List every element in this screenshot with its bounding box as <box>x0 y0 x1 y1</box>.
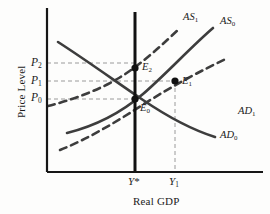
curve-label-as0: AS0 <box>220 16 235 27</box>
x-axis-title: Real GDP <box>133 196 180 207</box>
ad-as-diagram: Price Level Real GDP P2 P1 P0 Y* Y1 AS1 … <box>0 0 270 214</box>
y-tick-label-p2: P2 <box>31 57 42 69</box>
y-tick-label-p0: P0 <box>31 92 42 104</box>
x-tick-label-ystar: Y* <box>128 176 140 187</box>
equilibrium-point-e0 <box>131 95 138 102</box>
curve-label-ad0: AD0 <box>220 130 237 141</box>
equilibrium-point-e1 <box>171 77 178 84</box>
x-tick-label-y1: Y1 <box>169 176 179 189</box>
curve-label-as1: AS1 <box>183 12 198 23</box>
y-tick-label-p1: P1 <box>31 75 42 87</box>
equilibrium-point-e2 <box>131 64 138 71</box>
equilibrium-label-e1: E1 <box>182 76 192 87</box>
y-axis-title: Price Level <box>16 65 27 118</box>
equilibrium-label-e2: E2 <box>142 62 152 73</box>
equilibrium-label-e0: E0 <box>140 103 150 114</box>
curve-label-ad1: AD1 <box>238 106 255 117</box>
